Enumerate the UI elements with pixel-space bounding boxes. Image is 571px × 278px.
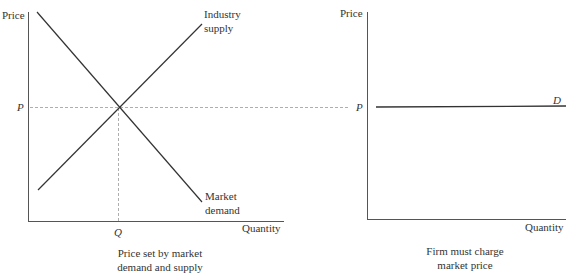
right-caption-line2: market price <box>410 258 520 272</box>
market-demand-curve <box>37 12 202 202</box>
right-caption: Firm must charge market price <box>410 244 520 272</box>
supply-label-line1: Industry <box>204 8 241 21</box>
left-caption-line1: Price set by market <box>100 246 220 260</box>
left-caption: Price set by market demand and supply <box>100 246 220 274</box>
supply-label-line2: supply <box>204 22 233 35</box>
demand-label-line1: Market <box>205 190 237 203</box>
left-caption-line2: demand and supply <box>100 260 220 274</box>
firm-demand-line <box>376 106 566 107</box>
left-price-axis-label: Price <box>2 9 25 22</box>
left-quantity-axis-label: Quantity <box>242 222 281 235</box>
right-caption-line1: Firm must charge <box>410 244 520 258</box>
firm-demand-label: D <box>553 94 561 107</box>
demand-label-line2: demand <box>205 204 240 217</box>
diagram-canvas <box>0 0 571 278</box>
right-price-axis-label: Price <box>340 7 363 20</box>
right-quantity-axis-label: Quantity <box>525 221 564 234</box>
quantity-marker: Q <box>114 226 122 239</box>
left-price-marker: P <box>17 101 24 114</box>
right-price-marker: P <box>356 101 363 114</box>
